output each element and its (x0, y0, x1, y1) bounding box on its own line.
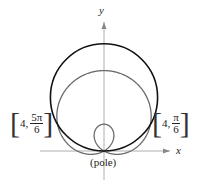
point-r: 4, (20, 117, 28, 129)
x-axis-arrow-icon (163, 149, 170, 154)
y-axis-arrow-icon (102, 22, 107, 29)
theta-numerator: π (172, 112, 180, 124)
point-r: 4, (162, 117, 170, 129)
pole-label: (pole) (90, 156, 116, 168)
y-axis-label: y (99, 4, 104, 16)
point-theta: π 6 (172, 112, 180, 135)
x-axis-label: x (176, 144, 181, 156)
theta-denominator: 6 (173, 124, 179, 135)
point-theta: 5π 6 (30, 112, 43, 135)
theta-numerator: 5π (30, 112, 43, 124)
theta-denominator: 6 (34, 124, 40, 135)
right-bracket: ] (180, 108, 190, 138)
right-bracket: ] (43, 108, 53, 138)
left-bracket: [ (152, 108, 162, 138)
left-bracket: [ (10, 108, 20, 138)
intersection-label-left: [ 4, 5π 6 ] (10, 108, 53, 138)
intersection-label-right: [ 4, π 6 ] (152, 108, 190, 138)
